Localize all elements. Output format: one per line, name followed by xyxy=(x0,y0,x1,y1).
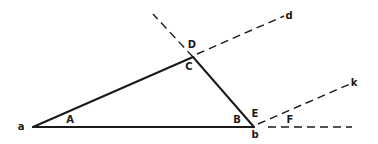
label-angle-B: B xyxy=(233,115,241,125)
triangle-figure xyxy=(0,0,378,144)
ray-Cd xyxy=(197,16,284,54)
geometry-diagram: a A D C d B E b k F xyxy=(0,0,378,144)
label-ray-k: k xyxy=(351,78,358,88)
ray-bk xyxy=(258,84,350,124)
label-angle-E: E xyxy=(252,109,259,119)
extension-bC-beyond-C xyxy=(153,14,193,57)
label-ray-d: d xyxy=(285,11,292,21)
label-vertex-b: b xyxy=(251,130,258,140)
label-angle-D: D xyxy=(188,40,196,50)
side-Cb xyxy=(193,57,254,127)
label-vertex-a: a xyxy=(18,122,25,132)
label-angle-F: F xyxy=(287,115,294,125)
label-angle-C: C xyxy=(185,62,192,72)
side-aC xyxy=(33,57,193,127)
label-angle-A: A xyxy=(66,115,74,125)
